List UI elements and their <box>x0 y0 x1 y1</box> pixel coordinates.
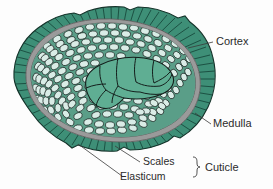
cuticle-brace <box>193 157 200 177</box>
scales-label: Scales <box>143 155 175 167</box>
cuticle-label: Cuticle <box>205 161 239 173</box>
cortex-label: Cortex <box>216 35 249 47</box>
elasticum-label: Elasticum <box>120 170 166 182</box>
hair-cross-section-figure: Cortex Medulla Scales Elasticum Cuticle <box>0 0 273 189</box>
diagram-svg: Cortex Medulla Scales Elasticum Cuticle <box>0 0 273 189</box>
medulla-label: Medulla <box>213 117 252 129</box>
